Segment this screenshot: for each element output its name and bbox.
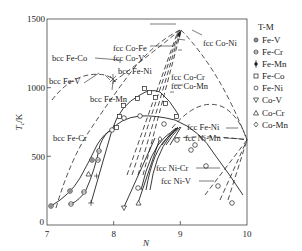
marker-fe-mn xyxy=(88,200,94,206)
label-fcc-co-mn: fcc Co-Mn xyxy=(171,81,209,91)
label-bcc-fe-mn: bcc Fe-Mn xyxy=(90,94,128,104)
x-tick-label: 10 xyxy=(243,229,253,239)
svg-text:Co-Mn: Co-Mn xyxy=(262,120,289,130)
experimental-curves xyxy=(51,91,243,207)
legend-item-fe-cr: Fe-Cr xyxy=(254,47,283,57)
svg-text:Co-V: Co-V xyxy=(262,95,283,105)
curie-temperature-chart: 7 8 9 10 0 500 1000 1500 N Tc/K xyxy=(0,0,302,251)
legend-item-fe-co: Fe-Co xyxy=(254,71,285,81)
label-bcc-fe-v: bcc Fe-V xyxy=(49,76,81,86)
y-axis-label: Tc/K xyxy=(14,113,25,130)
label-bcc-fe-cr: bcc Fe-Cr xyxy=(53,133,87,143)
label-bcc-fe-ni: bcc Fe-Ni xyxy=(118,66,152,76)
label-fcc-co-v: fcc Co-V xyxy=(113,53,145,63)
svg-text:Fe-Ni: Fe-Ni xyxy=(262,83,283,93)
svg-text:Co-Cr: Co-Cr xyxy=(262,108,285,118)
svg-text:Fe-Mn: Fe-Mn xyxy=(262,59,287,69)
label-bcc-fe-co: bcc Fe-Co xyxy=(52,53,87,63)
svg-text:Fe-Cr: Fe-Cr xyxy=(262,47,283,57)
label-fcc-fe-ni: fcc Fe-Ni xyxy=(187,122,220,132)
label-fcc-ni-mn: fcc Ni-Mn xyxy=(185,133,221,143)
legend-title: T-M xyxy=(258,22,274,32)
y-tick-label: 500 xyxy=(32,152,46,162)
label-fcc-ni-v: fcc Ni-V xyxy=(161,176,192,186)
x-axis-label: N xyxy=(142,238,150,248)
svg-text:Fe-Co: Fe-Co xyxy=(262,71,285,81)
x-tick-label: 8 xyxy=(111,229,116,239)
legend-item-co-cr: Co-Cr xyxy=(254,108,285,118)
legend-item-co-mn: Co-Mn xyxy=(254,120,289,130)
svg-text:Fe-V: Fe-V xyxy=(262,35,281,45)
svg-text:Tc/K: Tc/K xyxy=(14,113,25,130)
x-tick-label: 9 xyxy=(178,229,183,239)
label-fcc-co-fe: fcc Co-Fe xyxy=(113,43,147,53)
marker-fe-v xyxy=(49,158,95,209)
legend-item-fe-v: Fe-V xyxy=(254,35,281,45)
legend: T-M Fe-V Fe-Cr Fe-Mn Fe-Co Fe-Ni Co-V Co… xyxy=(254,22,289,130)
y-tick-label: 1000 xyxy=(27,83,46,93)
marker-co-v xyxy=(122,206,127,211)
y-tick-label: 1500 xyxy=(27,14,46,24)
label-fcc-ni-cr: fcc Ni-Cr xyxy=(156,163,189,173)
y-tick-label: 0 xyxy=(40,217,45,227)
marker-co-cr xyxy=(136,201,141,206)
legend-item-fe-ni: Fe-Ni xyxy=(254,83,283,93)
x-ticks xyxy=(114,221,181,225)
label-fcc-co-ni: fcc Co-Ni xyxy=(203,38,237,48)
legend-item-fe-mn: Fe-Mn xyxy=(254,59,287,69)
y-ticks xyxy=(47,88,51,157)
legend-item-co-v: Co-V xyxy=(254,95,283,105)
x-tick-label: 7 xyxy=(45,229,50,239)
